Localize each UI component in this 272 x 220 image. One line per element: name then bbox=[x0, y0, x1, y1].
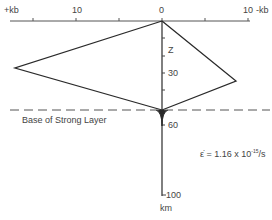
extension-envelope bbox=[162, 21, 236, 110]
tick-label-10-left: 10 bbox=[72, 6, 82, 15]
minus-kb-label: -kb bbox=[256, 6, 269, 15]
tick-label-0: 0 bbox=[159, 6, 164, 15]
base-of-strong-layer-label: Base of Strong Layer bbox=[22, 116, 107, 125]
depth-tick-60: 60 bbox=[168, 121, 178, 130]
base-cusp bbox=[156, 110, 168, 126]
compression-envelope bbox=[15, 21, 162, 110]
depth-tick-30: 30 bbox=[168, 69, 178, 78]
plus-kb-label: +kb bbox=[4, 6, 19, 15]
strain-rate-exponent: -15 bbox=[251, 148, 258, 154]
tick-label-10-right: 10 bbox=[243, 6, 253, 15]
strain-rate-value: ε̇ = 1.16 x 10 bbox=[200, 149, 251, 159]
depth-tick-100: 100 bbox=[166, 191, 181, 200]
depth-unit-label: km bbox=[160, 204, 172, 213]
depth-var-label: Z bbox=[168, 46, 174, 55]
strain-rate-label: ε̇ = 1.16 x 10-15/s bbox=[200, 150, 266, 159]
strength-envelope-diagram bbox=[0, 0, 272, 220]
strain-rate-unit: /s bbox=[259, 149, 266, 159]
